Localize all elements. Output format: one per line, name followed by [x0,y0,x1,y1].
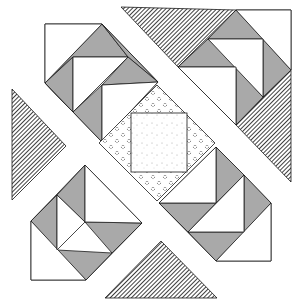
hatch-left [12,89,66,200]
block-bottom-left [31,165,142,280]
center-speckled-square [131,113,187,172]
quilt-svg [0,0,297,305]
quilt-diagram [0,0,297,305]
hatch-bottom [105,241,217,298]
